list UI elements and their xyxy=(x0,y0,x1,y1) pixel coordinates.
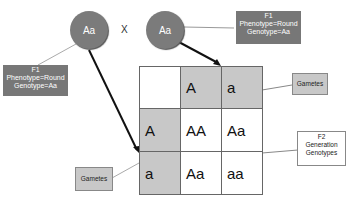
gamete-side-cell: a xyxy=(139,151,181,195)
parent-circle-left: Aa xyxy=(70,11,108,49)
genotype-cell: Aa xyxy=(180,151,222,195)
gamete-top-cell: A xyxy=(180,66,222,109)
f1-phenotype: Phenotype=Round xyxy=(236,20,301,28)
f2-title: F2 xyxy=(298,133,345,141)
f1-label-left: F1 Phenotype=Round Genotype=Aa xyxy=(3,65,68,96)
f1-phenotype: Phenotype=Round xyxy=(3,74,68,82)
gametes-callout-left: Gametes xyxy=(75,167,113,191)
parent-circle-right: Aa xyxy=(146,11,184,49)
f1-genotype: Genotype=Aa xyxy=(3,82,68,90)
f1-genotype: Genotype=Aa xyxy=(236,28,301,36)
gamete-side-cell: A xyxy=(139,108,181,152)
cross-symbol: X xyxy=(121,24,128,35)
corner-cell xyxy=(139,66,181,109)
f2-callout: F2 Generation Genotypes xyxy=(297,131,346,166)
genotype-cell: Aa xyxy=(221,108,263,152)
f1-label-right: F1 Phenotype=Round Genotype=Aa xyxy=(236,11,301,44)
f2-line: Generation xyxy=(298,141,345,149)
f2-line: Genotypes xyxy=(298,149,345,157)
parent-genotype: Aa xyxy=(159,25,171,36)
f1-title: F1 xyxy=(3,66,68,74)
genotype-cell: aa xyxy=(221,151,263,195)
gametes-callout-top: Gametes xyxy=(292,73,328,95)
parent-genotype: Aa xyxy=(83,25,95,36)
f1-title: F1 xyxy=(236,12,301,20)
genotype-cell: AA xyxy=(180,108,222,152)
gamete-top-cell: a xyxy=(221,66,263,109)
